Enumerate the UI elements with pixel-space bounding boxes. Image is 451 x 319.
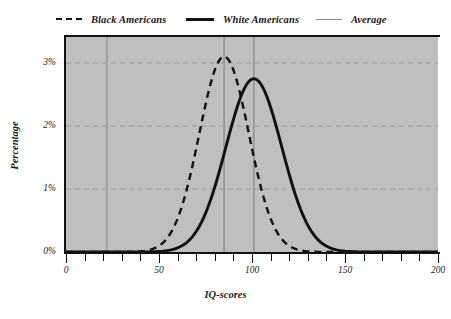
x-tick-mark bbox=[364, 254, 365, 261]
y-tick-label-3: 3% bbox=[22, 57, 56, 67]
x-tick-mark bbox=[382, 254, 383, 261]
x-tick-mark bbox=[159, 254, 160, 263]
solid-line-key-icon bbox=[186, 18, 214, 21]
y-axis-title: Percentage bbox=[9, 111, 20, 181]
x-tick-mark bbox=[345, 254, 346, 263]
x-tick-mark bbox=[438, 254, 439, 263]
dashed-line-key-icon bbox=[56, 18, 82, 20]
x-tick-mark bbox=[401, 254, 402, 261]
legend-label: Black Americans bbox=[91, 14, 167, 25]
series-line-black-americans bbox=[66, 57, 438, 252]
x-tick-mark bbox=[140, 254, 141, 261]
plot-svg bbox=[66, 37, 438, 252]
horizontal-gridlines bbox=[66, 63, 438, 189]
x-tick-mark bbox=[85, 254, 86, 261]
x-tick-mark bbox=[178, 254, 179, 261]
x-tick-mark bbox=[252, 254, 253, 263]
x-tick-mark bbox=[419, 254, 420, 261]
x-tick-mark bbox=[271, 254, 272, 261]
x-tick-mark bbox=[215, 254, 216, 261]
thin-line-key-icon bbox=[316, 19, 342, 20]
x-tick-mark bbox=[66, 254, 67, 263]
x-tick-label-200: 200 bbox=[418, 265, 451, 275]
x-tick-mark bbox=[233, 254, 234, 261]
x-tick-label-0: 0 bbox=[46, 265, 86, 275]
x-tick-mark bbox=[122, 254, 123, 261]
y-axis-line bbox=[64, 37, 66, 254]
x-tick-mark bbox=[196, 254, 197, 261]
series-line-white-americans bbox=[66, 79, 438, 252]
x-axis-title: IQ-scores bbox=[0, 289, 451, 300]
plot-area bbox=[66, 37, 438, 252]
chart-figure: Black Americans White Americans Average bbox=[0, 0, 451, 319]
x-tick-label-100: 100 bbox=[232, 265, 272, 275]
x-tick-label-150: 150 bbox=[325, 265, 365, 275]
x-tick-mark bbox=[308, 254, 309, 261]
plot-top-border bbox=[64, 35, 440, 37]
x-tick-mark bbox=[289, 254, 290, 261]
x-tick-mark bbox=[326, 254, 327, 261]
y-tick-label-0: 0% bbox=[22, 246, 56, 256]
legend-item-average: Average bbox=[316, 8, 387, 30]
chart-legend: Black Americans White Americans Average bbox=[0, 8, 451, 30]
legend-item-white-americans: White Americans bbox=[186, 8, 299, 30]
y-tick-label-1: 1% bbox=[22, 183, 56, 193]
legend-label: White Americans bbox=[223, 14, 299, 25]
x-tick-label-50: 50 bbox=[139, 265, 179, 275]
legend-label: Average bbox=[351, 14, 387, 25]
y-tick-label-2: 2% bbox=[22, 120, 56, 130]
average-reference-lines bbox=[107, 37, 254, 252]
x-tick-mark bbox=[103, 254, 104, 261]
legend-item-black-americans: Black Americans bbox=[56, 8, 167, 30]
